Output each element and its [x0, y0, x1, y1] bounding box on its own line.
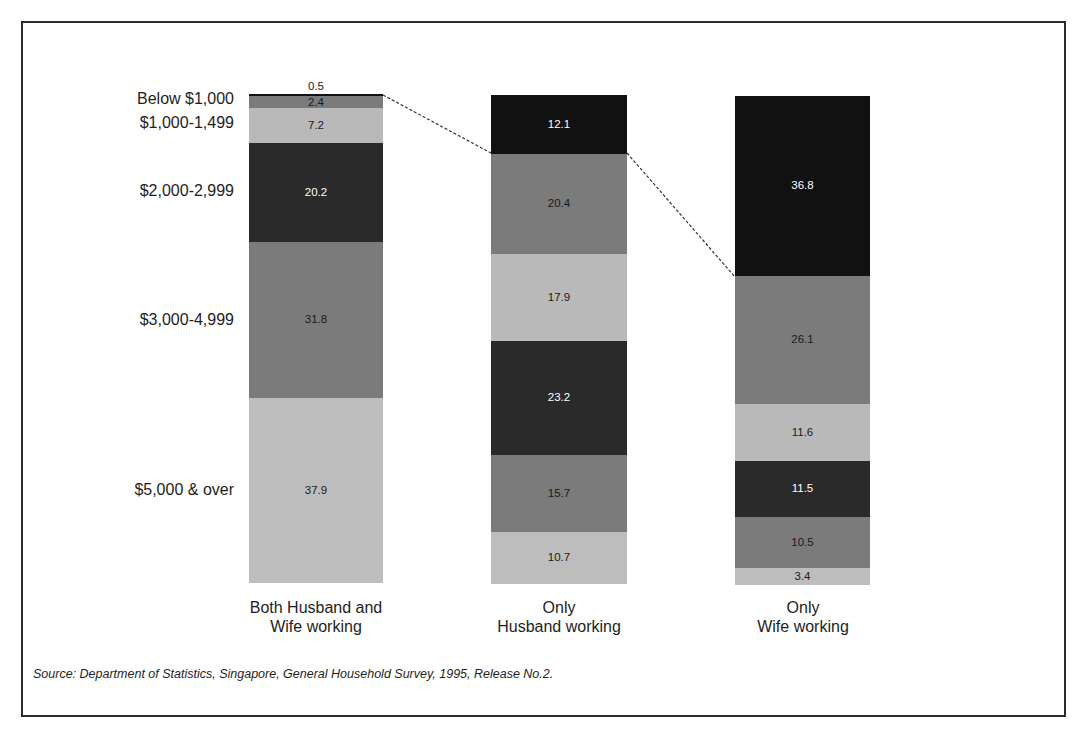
segment-value: 11.6: [792, 427, 814, 439]
segment-value: 12.1: [548, 119, 570, 131]
income-label-2000-2999: $2,000-2,999: [140, 182, 234, 200]
bar-segment: 20.2: [249, 143, 383, 242]
x-label-line2: Wife working: [216, 617, 416, 636]
segment-value: 26.1: [791, 334, 813, 346]
bar-segment: 31.8: [249, 242, 383, 398]
bar-segment: 26.1: [735, 276, 870, 404]
bar-segment: 17.9: [491, 254, 627, 342]
segment-value: 20.2: [305, 187, 327, 199]
bar-segment: 36.8: [735, 96, 870, 276]
segment-value: 11.5: [792, 483, 814, 495]
segment-value: 15.7: [548, 488, 570, 500]
bar-segment: 15.7: [491, 455, 627, 532]
segment-value: 31.8: [305, 314, 327, 326]
segment-value: 10.7: [548, 552, 570, 564]
bar-segment: 11.6: [735, 404, 870, 461]
segment-value: 3.4: [795, 571, 811, 583]
x-label-line2: Husband working: [459, 617, 659, 636]
bar-3: 36.826.111.611.510.53.4: [735, 96, 870, 585]
segment-value: 2.4: [308, 97, 324, 109]
income-label-1000-1499: $1,000-1,499: [140, 114, 234, 132]
x-label-line2: Wife working: [703, 617, 903, 636]
bar-segment: 20.4: [491, 154, 627, 254]
bar-segment: 12.1: [491, 95, 627, 154]
bar-2: 12.120.417.923.215.710.7: [491, 95, 627, 584]
bar-segment: 10.5: [735, 517, 870, 568]
x-label-both-working: Both Husband and Wife working: [216, 598, 416, 636]
bar-segment: 2.4: [249, 96, 383, 108]
stacked-bar-chart: Below $1,000 $1,000-1,499 $2,000-2,999 $…: [0, 0, 1081, 735]
bar-segment: 10.7: [491, 532, 627, 584]
income-label-3000-4999: $3,000-4,999: [140, 311, 234, 329]
bar-segment: 23.2: [491, 341, 627, 454]
x-label-only-husband: Only Husband working: [459, 598, 659, 636]
bar-segment: 3.4: [735, 568, 870, 585]
bar-segment: 7.2: [249, 108, 383, 143]
bar-segment: 37.9: [249, 398, 383, 583]
bar-segment: 11.5: [735, 461, 870, 517]
income-label-below-1000: Below $1,000: [137, 90, 234, 108]
segment-value: 10.5: [791, 537, 813, 549]
x-label-line1: Only: [459, 598, 659, 617]
bar-1: 2.47.220.231.837.9: [249, 94, 383, 583]
x-label-only-wife: Only Wife working: [703, 598, 903, 636]
source-note: Source: Department of Statistics, Singap…: [33, 667, 553, 681]
segment-value: 7.2: [308, 120, 324, 132]
segment-value: 37.9: [305, 485, 327, 497]
x-label-line1: Both Husband and: [216, 598, 416, 617]
bar1-segment1-value: 0.5: [249, 80, 383, 92]
income-label-5000-over: $5,000 & over: [134, 481, 234, 499]
segment-value: 23.2: [548, 392, 570, 404]
x-label-line1: Only: [703, 598, 903, 617]
segment-value: 17.9: [548, 292, 570, 304]
segment-value: 36.8: [791, 180, 813, 192]
segment-value: 20.4: [548, 198, 570, 210]
